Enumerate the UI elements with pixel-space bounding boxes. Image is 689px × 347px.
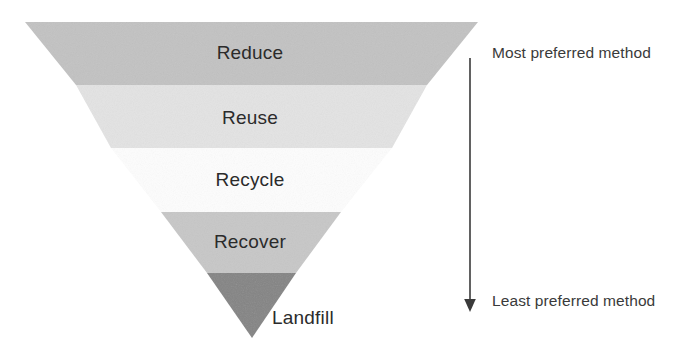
arrow-head-down-icon [464, 299, 476, 312]
preference-arrow-icon [461, 58, 483, 312]
most-preferred-method-label: Most preferred method [492, 44, 651, 62]
funnel-band-recycle [111, 148, 392, 212]
funnel-band-recover [161, 212, 341, 273]
funnel-band-reuse [76, 85, 427, 148]
funnel-band-landfill [207, 273, 296, 338]
waste-hierarchy-diagram: Reduce Reuse Recycle Recover Landfill Mo… [0, 0, 689, 347]
funnel-band-reduce [25, 22, 478, 85]
least-preferred-method-label: Least preferred method [492, 292, 655, 310]
